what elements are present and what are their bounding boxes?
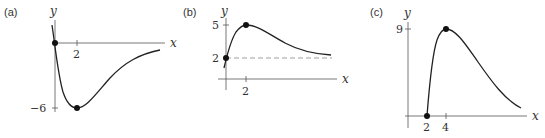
panel-a-y-label: y [49,4,57,18]
panel-c-y-tick-label: 9 [396,23,403,36]
panel-a-point-minimum [74,105,80,111]
panel-a-label: (a) [4,6,17,18]
panel-a-curve [52,25,160,108]
panel-c-point-x-intercept [424,113,430,119]
panel-b-x-tick-label: 2 [242,85,249,98]
panel-c-curve [427,29,521,116]
panel-a-y-tick-label: −6 [30,102,46,115]
panel-c-point-maximum [443,26,449,32]
panel-a-x-label: x [170,36,177,50]
panel-c: (c) y x 9 2 4 [370,6,539,134]
panel-a: (a) y x 2 −6 [4,4,177,115]
panel-b-x-label: x [342,72,349,86]
panel-b: (b) y x 2 5 2 [183,4,349,98]
panel-b-point-y-intercept [223,55,229,61]
panel-c-y-label: y [403,6,411,20]
figure-canvas: (a) y x 2 −6 (b) y x 2 5 2 [0,0,545,138]
panel-c-x-tick-label-4: 4 [442,121,449,134]
panel-c-x-label: x [532,109,539,123]
panel-b-point-maximum [243,22,249,28]
panel-b-label: (b) [183,6,196,18]
panel-b-curve [224,25,331,68]
panel-b-y-tick-label-5: 5 [212,19,219,32]
panel-b-y-tick-label-2: 2 [212,52,219,65]
panel-c-label: (c) [370,6,383,18]
panel-b-y-label: y [220,4,228,18]
panel-c-x-tick-label-2: 2 [423,121,430,134]
panel-a-x-tick-label: 2 [73,48,80,61]
panel-a-point-origin [52,40,58,46]
